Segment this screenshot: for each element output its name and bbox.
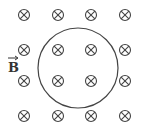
field-into-page-icon: [86, 111, 97, 122]
field-label: B: [8, 56, 19, 75]
field-into-page-icon: [19, 76, 30, 87]
field-into-page-icon: [53, 45, 64, 56]
field-into-page-icon: [120, 10, 131, 21]
field-into-page-icon: [86, 45, 97, 56]
field-into-page-icon: [120, 111, 131, 122]
field-into-page-icon: [120, 45, 131, 56]
field-into-page-icon: [120, 76, 131, 87]
field-into-page-icon: [19, 10, 30, 21]
field-into-page-icon: [86, 76, 97, 87]
field-into-page-icon: [86, 10, 97, 21]
circular-region: [38, 28, 118, 108]
field-into-page-icon: [53, 76, 64, 87]
magnetic-field-diagram: B: [0, 0, 141, 132]
field-into-page-icon: [19, 111, 30, 122]
field-grid: [19, 10, 131, 122]
field-into-page-icon: [53, 111, 64, 122]
field-label-text: B: [8, 60, 19, 75]
field-into-page-icon: [19, 45, 30, 56]
field-into-page-icon: [53, 10, 64, 21]
